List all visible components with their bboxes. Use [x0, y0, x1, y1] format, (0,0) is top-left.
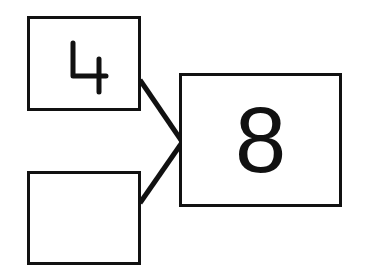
part-box-top[interactable]: 4	[27, 16, 141, 111]
digit-four-glyph	[30, 19, 144, 114]
connector-bottom	[140, 144, 181, 203]
connector-top	[140, 80, 181, 140]
whole-value: 8	[235, 94, 286, 186]
part-box-bottom[interactable]	[27, 171, 141, 265]
whole-box[interactable]: 8	[179, 73, 342, 207]
